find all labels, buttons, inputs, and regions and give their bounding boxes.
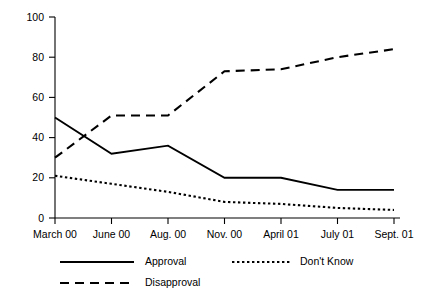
x-axis-tick-label: July 01 — [321, 229, 354, 240]
y-axis-tick-label: 0 — [14, 213, 44, 224]
series-line-disapproval — [55, 49, 394, 158]
y-axis-tick-label: 100 — [14, 12, 44, 23]
chart-plot-area — [0, 0, 426, 301]
legend-label-approval: Approval — [145, 256, 186, 267]
x-axis-tick-label: Aug. 00 — [150, 229, 186, 240]
y-axis-tick-label: 20 — [14, 172, 44, 183]
legend-label-don-t-know: Don't Know — [300, 256, 353, 267]
x-axis-tick-label: March 00 — [33, 229, 77, 240]
x-axis-ticks — [55, 218, 394, 224]
x-axis-tick-label: June 00 — [93, 229, 130, 240]
axes — [49, 17, 400, 224]
y-axis-tick-label: 40 — [14, 132, 44, 143]
y-axis-ticks — [49, 17, 55, 218]
line-chart: 020406080100 March 00June 00Aug. 00Nov. … — [0, 0, 426, 301]
data-series-group — [55, 49, 394, 210]
y-axis-tick-label: 60 — [14, 92, 44, 103]
x-axis-tick-label: Nov. 00 — [207, 229, 242, 240]
y-axis-tick-label: 80 — [14, 52, 44, 63]
series-line-don-t-know — [55, 176, 394, 210]
legend-label-disapproval: Disapproval — [145, 277, 200, 288]
x-axis-tick-label: April 01 — [263, 229, 299, 240]
series-line-approval — [55, 118, 394, 190]
x-axis-tick-label: Sept. 01 — [374, 229, 413, 240]
